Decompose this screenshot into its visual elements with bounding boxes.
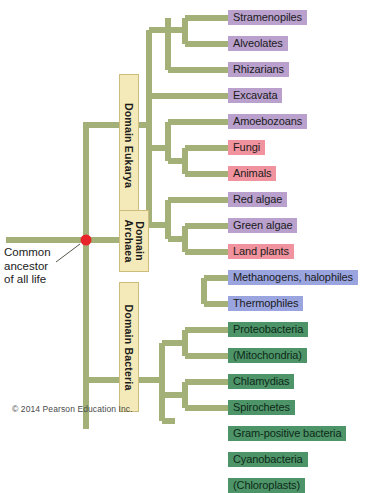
- domain-label-eukarya: Domain Eukarya: [119, 74, 139, 216]
- taxon-label-thermophiles: Thermophiles: [228, 296, 303, 311]
- taxon-label-rhizarians: Rhizarians: [228, 62, 289, 77]
- copyright-notice: © 2014 Pearson Education Inc.: [12, 404, 133, 414]
- domain-label-bacteria: Domain Bacteria: [119, 282, 139, 412]
- taxon-label-spirochetes: Spirochetes: [228, 400, 295, 415]
- taxon-label-proteobacteria: Proteobacteria: [228, 322, 308, 337]
- taxon-label-land-plants: Land plants: [228, 244, 294, 259]
- taxon-label-stramenopiles: Stramenopiles: [228, 10, 307, 25]
- taxon-label-fungi: Fungi: [228, 140, 265, 155]
- taxon-label-animals: Animals: [228, 166, 276, 181]
- taxon-label-methanogens-halophiles: Methanogens, halophiles: [228, 270, 358, 285]
- taxon-label-amoebozoans: Amoebozoans: [228, 114, 307, 129]
- taxon-label-chlamydias: Chlamydias: [228, 374, 294, 389]
- domain-label-archaea: DomainArchaea: [119, 210, 149, 272]
- common-ancestor-caption: Common ancestorof all life: [4, 246, 88, 287]
- taxon-label-red-algae: Red algae: [228, 192, 287, 207]
- taxon-label-green-algae: Green algae: [228, 218, 297, 233]
- taxon-label-mitochondria: (Mitochondria): [228, 348, 307, 363]
- taxon-label-excavata: Excavata: [228, 88, 282, 103]
- common-ancestor-node: [81, 235, 92, 246]
- taxon-label-cyanobacteria: Cyanobacteria: [228, 452, 308, 467]
- branch-to-eukarya: [86, 125, 103, 240]
- taxon-label-chloroplasts: (Chloroplasts): [228, 478, 305, 493]
- taxon-label-alveolates: Alveolates: [228, 36, 288, 51]
- taxon-label-gram-positive-bacteria: Gram-positive bacteria: [228, 426, 346, 441]
